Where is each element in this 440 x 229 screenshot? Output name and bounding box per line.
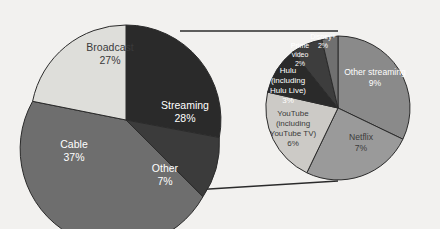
- label-youtube-line3: YouTube TV): [270, 129, 317, 138]
- label-hulu-line3: Hulu Live): [270, 86, 306, 95]
- pie-of-pie-figure: Broadcast 27% Cable 37% Streaming 28% Ot…: [0, 0, 440, 229]
- label-other-streaming-name: Other streaming: [344, 67, 406, 77]
- label-hulu-line1: Hulu: [280, 66, 296, 75]
- label-youtube-line1: YouTube: [277, 109, 309, 118]
- label-cable-name: Cable: [60, 138, 88, 150]
- label-other-name: Other: [152, 162, 179, 174]
- label-other-value: 7%: [157, 175, 172, 187]
- label-prime-value: 2%: [295, 60, 305, 67]
- label-netflix-value: 7%: [355, 143, 368, 153]
- label-youtube-line2: (including: [276, 119, 310, 128]
- label-disney-name: Disney+: [310, 33, 335, 41]
- chart-canvas: Broadcast 27% Cable 37% Streaming 28% Ot…: [0, 0, 440, 229]
- label-prime-line1: Prime: [291, 42, 309, 49]
- label-prime-line2: video: [292, 51, 309, 58]
- label-hulu-value: 3%: [282, 96, 294, 105]
- label-disney-value: 2%: [318, 42, 328, 49]
- label-cable-value: 37%: [63, 151, 84, 163]
- label-streaming-name: Streaming: [161, 99, 209, 111]
- label-broadcast-name: Broadcast: [86, 41, 133, 53]
- label-broadcast-value: 27%: [99, 54, 120, 66]
- label-netflix-name: Netflix: [349, 132, 374, 142]
- label-other-streaming-value: 9%: [369, 78, 382, 88]
- label-hulu-line2: (including: [271, 76, 305, 85]
- label-youtube-value: 6%: [287, 139, 299, 148]
- label-streaming-value: 28%: [174, 112, 195, 124]
